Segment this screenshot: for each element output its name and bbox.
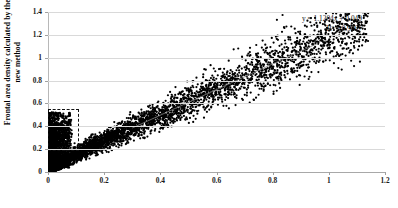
y-tick-mark xyxy=(45,58,48,59)
y-tick-label: 0.6 xyxy=(20,99,42,106)
y-tick-mark xyxy=(45,12,48,13)
x-tick-mark xyxy=(385,172,386,175)
plot-inner xyxy=(48,12,385,172)
x-tick-label: 0.2 xyxy=(91,177,117,184)
regression-r2-text: R² = 0.9007 xyxy=(258,24,362,34)
gridline-y xyxy=(48,12,385,13)
x-tick-mark xyxy=(160,172,161,175)
gridline-y xyxy=(48,58,385,59)
y-tick-mark xyxy=(45,149,48,150)
regression-equation-text: y = 1.1204x + 0.049 xyxy=(258,14,362,24)
y-tick-label: 0 xyxy=(20,168,42,175)
x-tick-mark xyxy=(329,172,330,175)
x-tick-mark xyxy=(217,172,218,175)
y-tick-mark xyxy=(45,103,48,104)
gridline-y xyxy=(48,103,385,104)
y-tick-mark xyxy=(45,81,48,82)
trendline-layer xyxy=(48,12,385,172)
y-tick-label: 0.8 xyxy=(20,77,42,84)
y-tick-label: 0.4 xyxy=(20,122,42,129)
gridline-y xyxy=(48,126,385,127)
outlier-cluster-highlight xyxy=(48,109,79,151)
gridline-y xyxy=(48,35,385,36)
x-tick-label: 0.4 xyxy=(147,177,173,184)
y-axis-title: Frontal area density calculated by the n… xyxy=(3,0,24,137)
x-tick-label: 1 xyxy=(316,177,342,184)
x-tick-label: 1.2 xyxy=(372,177,398,184)
y-tick-label: 1 xyxy=(20,54,42,61)
y-tick-label: 1.2 xyxy=(20,31,42,38)
gridline-y xyxy=(48,81,385,82)
x-tick-label: 0.6 xyxy=(204,177,230,184)
scatter-chart: Frontal area density calculated by the n… xyxy=(0,0,398,208)
x-tick-mark xyxy=(48,172,49,175)
y-tick-mark xyxy=(45,35,48,36)
gridline-y xyxy=(48,149,385,150)
x-tick-label: 0.8 xyxy=(260,177,286,184)
plot-area xyxy=(48,12,385,172)
regression-equation: y = 1.1204x + 0.049 R² = 0.9007 xyxy=(258,14,362,34)
y-tick-mark xyxy=(45,126,48,127)
y-tick-label: 0.2 xyxy=(20,145,42,152)
x-tick-mark xyxy=(104,172,105,175)
x-tick-label: 0 xyxy=(35,177,61,184)
y-axis-title-line1: Frontal area density calculated by the xyxy=(3,0,12,125)
x-tick-mark xyxy=(273,172,274,175)
y-tick-label: 1.4 xyxy=(20,8,42,15)
